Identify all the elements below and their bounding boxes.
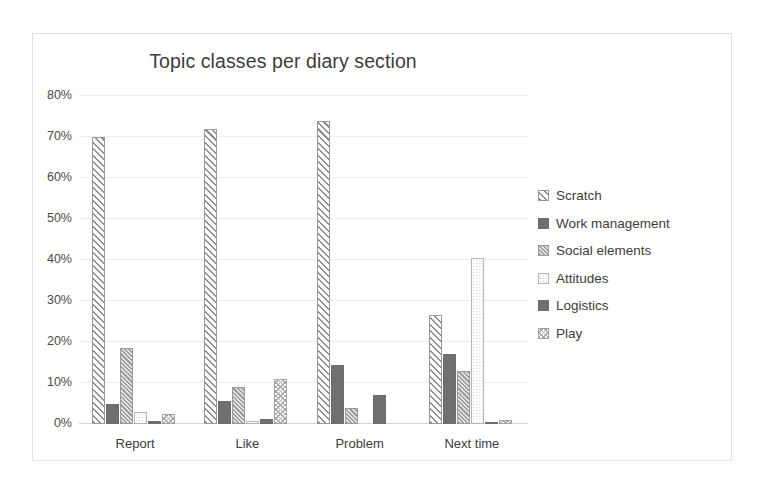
legend-swatch-icon [538, 300, 549, 311]
bar-work-management[interactable] [331, 365, 344, 424]
y-axis-tick-label: 30% [47, 293, 72, 307]
chart-title: Topic classes per diary section [33, 50, 533, 73]
y-axis-tick-label: 20% [47, 334, 72, 348]
plot-area: 0%10%20%30%40%50%60%70%80%ReportLikeProb… [79, 96, 528, 424]
bar-social-elements[interactable] [457, 371, 470, 424]
bar-scratch[interactable] [317, 121, 330, 424]
legend-swatch-icon [538, 328, 549, 339]
bar-work-management[interactable] [106, 404, 119, 425]
legend-item-attitudes[interactable]: Attitudes [538, 265, 728, 293]
bar-work-management[interactable] [218, 401, 231, 424]
bar-row [191, 96, 303, 424]
legend-swatch-icon [538, 218, 549, 229]
bar-attitudes[interactable] [471, 258, 484, 424]
y-axis-tick-label: 80% [47, 88, 72, 102]
y-axis-tick-label: 60% [47, 170, 72, 184]
bar-scratch[interactable] [429, 315, 442, 424]
legend-item-label: Play [556, 326, 582, 341]
legend-item-label: Work management [556, 216, 670, 231]
legend-item-play[interactable]: Play [538, 320, 728, 348]
legend-swatch-icon [538, 245, 549, 256]
bar-logistics[interactable] [148, 421, 161, 424]
bar-logistics[interactable] [485, 422, 498, 424]
legend-item-scratch[interactable]: Scratch [538, 182, 728, 210]
chart-frame: Topic classes per diary section 0%10%20%… [32, 33, 732, 461]
plot-inner: 0%10%20%30%40%50%60%70%80%ReportLikeProb… [79, 96, 528, 424]
legend-item-label: Social elements [556, 243, 651, 258]
y-axis-tick-label: 10% [47, 375, 72, 389]
legend-item-social-elements[interactable]: Social elements [538, 237, 728, 265]
bar-row [304, 96, 416, 424]
bar-play[interactable] [162, 414, 175, 424]
bar-social-elements[interactable] [232, 387, 245, 424]
legend-swatch-icon [538, 273, 549, 284]
x-axis-tick-label: Problem [304, 436, 416, 451]
x-axis-tick-label: Report [79, 436, 191, 451]
bar-group-next-time: Next time [416, 96, 528, 424]
bar-row [79, 96, 191, 424]
bar-logistics[interactable] [260, 419, 273, 424]
bar-group-problem: Problem [304, 96, 416, 424]
legend-item-label: Attitudes [556, 271, 609, 286]
y-axis-tick-label: 50% [47, 211, 72, 225]
y-axis-tick-label: 0% [54, 416, 72, 430]
legend-item-label: Scratch [556, 188, 602, 203]
bar-group-report: Report [79, 96, 191, 424]
bar-social-elements[interactable] [120, 348, 133, 424]
bar-logistics[interactable] [373, 395, 386, 424]
bar-row [416, 96, 528, 424]
x-axis-tick-label: Like [191, 436, 303, 451]
bar-scratch[interactable] [92, 137, 105, 424]
chart-legend: ScratchWork managementSocial elementsAtt… [538, 182, 728, 347]
bar-scratch[interactable] [204, 129, 217, 424]
x-axis-tick-label: Next time [416, 436, 528, 451]
bar-play[interactable] [274, 379, 287, 424]
bar-attitudes[interactable] [246, 421, 259, 424]
legend-item-work-management[interactable]: Work management [538, 210, 728, 238]
bar-group-like: Like [191, 96, 303, 424]
legend-item-label: Logistics [556, 298, 609, 313]
bar-work-management[interactable] [443, 354, 456, 424]
bar-play[interactable] [499, 420, 512, 424]
y-axis-tick-label: 70% [47, 129, 72, 143]
legend-item-logistics[interactable]: Logistics [538, 292, 728, 320]
bar-attitudes[interactable] [134, 412, 147, 424]
legend-swatch-icon [538, 190, 549, 201]
y-axis-tick-label: 40% [47, 252, 72, 266]
bar-social-elements[interactable] [345, 408, 358, 424]
